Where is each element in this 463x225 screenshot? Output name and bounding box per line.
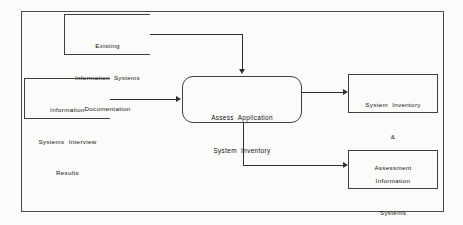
process-line-2: System Inventory — [183, 145, 301, 156]
source-interview-results-label: Information Systems Interview Results — [25, 84, 110, 200]
source-existing-documentation: Existing Information Systems Documentati… — [64, 14, 150, 55]
destination-needs-label: Information Systems Needs "Notes" — [349, 155, 437, 225]
arrowhead-right-icon-process-to-needs — [343, 162, 348, 168]
source-interview-line-3: Results — [25, 168, 110, 179]
source-interview-line-2: Systems Interview — [25, 137, 110, 148]
process-line-1: Assess Application — [183, 112, 301, 123]
arrowhead-right-icon-interview-to-process — [176, 96, 181, 102]
flow-documentation-to-process-vertical-segment — [242, 34, 243, 70]
source-doc-line-1: Existing — [65, 41, 150, 52]
destination-inventory-line-1: System Inventory — [349, 100, 437, 111]
destination-inventory-line-2: & — [349, 132, 437, 143]
source-interview-line-1: Information — [25, 105, 110, 116]
destination-needs-line-1: Information — [349, 176, 437, 187]
flow-process-to-needs-vertical-segment — [243, 123, 244, 165]
arrowhead-right-icon-process-to-inventory — [343, 89, 348, 95]
arrowhead-down-icon-documentation-to-process — [239, 69, 245, 74]
source-interview-results: Information Systems Interview Results — [24, 78, 110, 119]
flow-process-to-needs-horizontal-segment — [243, 165, 344, 166]
diagram-canvas: Existing Information Systems Documentati… — [0, 0, 463, 225]
flow-interview-to-process-horizontal-segment — [110, 99, 177, 100]
flow-documentation-to-process-horizontal-segment — [150, 34, 243, 35]
flow-process-to-inventory-horizontal-segment — [302, 92, 344, 93]
destination-information-systems-needs-notes: Information Systems Needs "Notes" — [348, 150, 438, 189]
destination-system-inventory-assessment: System Inventory & Assessment — [348, 74, 438, 113]
process-assess-application-system-inventory: Assess Application System Inventory — [182, 76, 302, 123]
destination-needs-line-2: Systems — [349, 208, 437, 219]
